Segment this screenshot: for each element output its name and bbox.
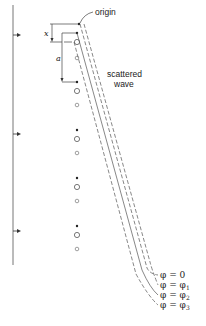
- wavefront-phi-1: [84, 24, 158, 285]
- phase-labels: φ = 0 φ = φ1 φ = φ2 φ = φ3: [160, 270, 190, 311]
- phase-label-3: φ = φ3: [160, 300, 190, 311]
- phase-label-0: φ = 0: [160, 270, 186, 280]
- origin-leader: [80, 12, 93, 23]
- a-dimension-label: a: [56, 54, 61, 63]
- incident-arrow-1: [13, 33, 21, 37]
- wavefront-phi-0: [80, 24, 158, 275]
- origin-label: origin: [95, 7, 116, 17]
- wavefront-lines: [74, 24, 158, 305]
- x-dimension-label: x: [44, 29, 49, 38]
- incident-arrow-2: [13, 132, 21, 136]
- scattering-diagram: origin x a scattered wave: [0, 0, 206, 326]
- scattered-wave-label-1: scattered: [107, 69, 142, 79]
- atom-column: [74, 32, 79, 251]
- incident-arrow-3: [13, 229, 21, 233]
- scattered-wave-label-2: wave: [113, 79, 134, 89]
- origin-point: [78, 23, 80, 25]
